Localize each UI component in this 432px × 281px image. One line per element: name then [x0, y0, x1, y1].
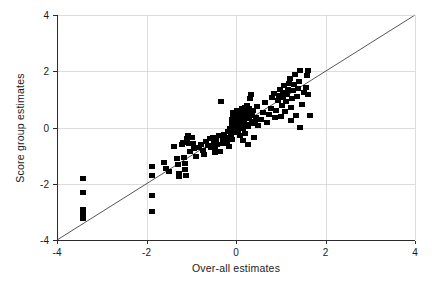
- data-point-marker: [229, 137, 235, 142]
- data-point-marker: [297, 68, 303, 73]
- data-point-marker: [254, 104, 260, 109]
- data-point-marker: [268, 106, 274, 111]
- y-tick-label: 2: [43, 66, 49, 77]
- data-point-marker: [297, 125, 303, 130]
- data-point-marker: [260, 110, 266, 115]
- data-point-marker: [80, 190, 86, 195]
- data-point-marker: [258, 117, 264, 122]
- data-point-marker: [288, 105, 294, 110]
- data-point-marker: [248, 92, 254, 97]
- x-axis-title: Over-all estimates: [192, 262, 280, 274]
- data-point-marker: [305, 68, 311, 73]
- data-point-marker: [242, 131, 248, 136]
- x-tick-label: 2: [323, 247, 329, 258]
- data-point-marker: [174, 156, 180, 161]
- x-tick-label: -4: [53, 247, 62, 258]
- x-tick-labels: -4-2024: [53, 247, 419, 258]
- data-point-marker: [80, 216, 86, 221]
- data-point-marker: [285, 87, 291, 92]
- data-point-marker: [304, 73, 310, 78]
- data-point-marker: [198, 142, 204, 147]
- data-point-marker: [292, 72, 298, 77]
- data-point-marker: [237, 133, 243, 138]
- data-point-marker: [288, 118, 294, 123]
- data-point-marker: [251, 135, 257, 140]
- data-point-marker: [80, 207, 86, 212]
- data-point-marker: [183, 173, 189, 178]
- data-point-marker: [287, 76, 293, 81]
- data-point-marker: [190, 141, 196, 146]
- data-point-marker: [296, 79, 302, 84]
- data-point-marker: [226, 144, 232, 149]
- data-point-marker: [201, 152, 207, 157]
- data-point-marker: [166, 169, 172, 174]
- data-point-marker: [182, 161, 188, 166]
- data-point-marker: [273, 108, 279, 113]
- data-point-marker: [149, 173, 155, 178]
- y-tick-label: 4: [43, 10, 49, 21]
- data-point-marker: [175, 162, 181, 167]
- scatter-plot-figure: -4-2024 -4-2024 Over-all estimates Score…: [0, 0, 432, 281]
- data-point-marker: [282, 109, 288, 114]
- data-point-marker: [293, 113, 299, 118]
- x-tick-label: 0: [233, 247, 239, 258]
- x-tick-label: 4: [412, 247, 418, 258]
- y-tick-labels: -4-2024: [40, 10, 49, 246]
- data-point-marker: [255, 123, 261, 128]
- data-point-marker: [303, 85, 309, 90]
- data-point-marker: [266, 112, 272, 117]
- data-point-marker: [295, 86, 301, 91]
- data-point-marker: [149, 193, 155, 198]
- data-point-marker: [182, 167, 188, 172]
- y-tick-label: -2: [40, 179, 49, 190]
- y-tick-label: 0: [43, 123, 49, 134]
- data-point-marker: [80, 176, 86, 181]
- data-point-marker: [247, 96, 253, 101]
- data-markers-group: [80, 68, 313, 221]
- data-point-marker: [189, 135, 195, 140]
- data-point-marker: [245, 142, 251, 147]
- data-point-marker: [271, 91, 277, 96]
- data-point-marker: [171, 144, 177, 149]
- data-point-marker: [176, 174, 182, 179]
- data-point-marker: [149, 164, 155, 169]
- data-point-marker: [262, 100, 268, 105]
- data-point-marker: [149, 209, 155, 214]
- data-point-marker: [193, 154, 199, 159]
- data-point-marker: [217, 149, 223, 154]
- data-point-marker: [294, 94, 300, 99]
- y-tick-label: -4: [40, 235, 49, 246]
- data-point-marker: [272, 115, 278, 120]
- data-point-marker: [305, 92, 311, 97]
- data-point-marker: [299, 102, 305, 107]
- data-point-marker: [218, 99, 224, 104]
- y-axis-title: Score group estimates: [14, 73, 26, 182]
- data-point-marker: [214, 142, 220, 147]
- data-point-marker: [181, 155, 187, 160]
- x-tick-label: -2: [142, 247, 151, 258]
- data-point-marker: [264, 120, 270, 125]
- plot-canvas: -4-2024 -4-2024 Over-all estimates Score…: [0, 0, 432, 281]
- data-point-marker: [283, 99, 289, 104]
- data-point-marker: [278, 114, 284, 119]
- data-point-marker: [284, 92, 290, 97]
- data-point-marker: [161, 160, 167, 165]
- data-point-marker: [307, 113, 313, 118]
- data-point-marker: [286, 81, 292, 86]
